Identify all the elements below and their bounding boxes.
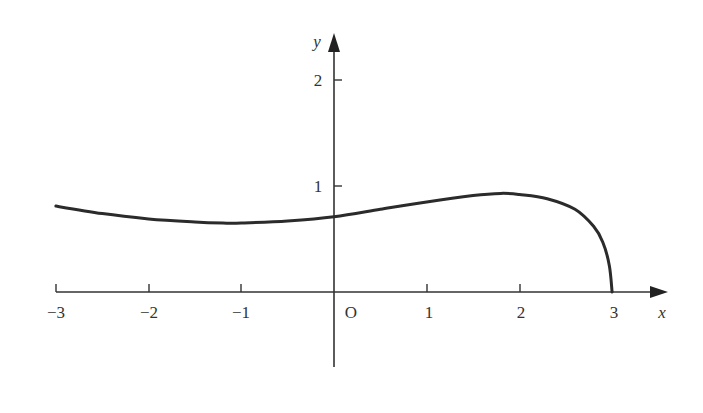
- y-axis-label: y: [311, 32, 321, 51]
- origin-label: O: [345, 303, 357, 322]
- x-tick-label: 3: [610, 303, 619, 322]
- x-axis-arrow-icon: [650, 286, 668, 298]
- y-tick-label: 2: [314, 71, 323, 90]
- y-axis-arrow-icon: [328, 33, 340, 52]
- x-tick-label: 1: [425, 303, 434, 322]
- x-axis-label: x: [657, 303, 666, 322]
- x-ticks: [56, 284, 520, 292]
- x-tick-label: −2: [140, 303, 158, 322]
- y-ticks: [334, 80, 342, 186]
- x-tick-label: 2: [517, 303, 526, 322]
- x-tick-label: −3: [47, 303, 65, 322]
- x-tick-label: −1: [232, 303, 250, 322]
- function-graph: −3 −2 −1 O 1 2 3 x 1 2 y: [0, 0, 703, 413]
- y-tick-label: 1: [314, 177, 323, 196]
